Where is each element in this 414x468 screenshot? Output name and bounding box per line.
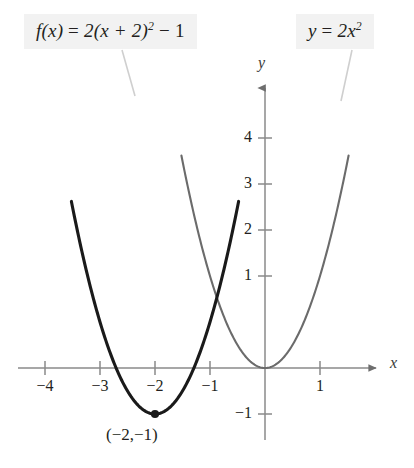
equation-y-lhs: y bbox=[308, 20, 317, 41]
equation-label-f: f(x) = 2(x + 2)2 − 1 bbox=[24, 14, 197, 49]
equation-label-y: y = 2x2 bbox=[296, 14, 374, 49]
x-tick-label--2: −2 bbox=[140, 377, 170, 395]
x-tick-label--3: −3 bbox=[85, 377, 115, 395]
y-tick-label-1: 1 bbox=[232, 266, 252, 284]
x-axis-label: x bbox=[390, 354, 397, 372]
vertex-coordinate-label: (−2,−1) bbox=[106, 425, 158, 445]
y-tick-label-4: 4 bbox=[232, 128, 252, 146]
equation-y-exponent: 2 bbox=[356, 20, 362, 33]
equation-f-lhs: f(x) bbox=[36, 20, 63, 41]
y-tick-label-3: 3 bbox=[232, 174, 252, 192]
equation-f-equals: = bbox=[63, 20, 84, 41]
equation-f-rhs: 2(x + 2) bbox=[84, 20, 148, 41]
y-tick-label-2: 2 bbox=[232, 220, 252, 238]
figure-canvas: f(x) = 2(x + 2)2 − 1 y = 2x2 y x −4 −3 −… bbox=[0, 0, 414, 468]
y-tick-label--1: −1 bbox=[222, 404, 252, 422]
y-axis-label: y bbox=[258, 54, 265, 72]
x-tick-label--4: −4 bbox=[30, 377, 60, 395]
equation-f-constant: − 1 bbox=[154, 20, 185, 41]
x-tick-label--1: −1 bbox=[195, 377, 225, 395]
x-tick-label-1: 1 bbox=[306, 377, 334, 395]
callout-leader-lines bbox=[122, 50, 352, 101]
vertex-dot bbox=[151, 410, 159, 418]
equation-y-rhs: 2x bbox=[337, 20, 355, 41]
graph-svg bbox=[0, 0, 414, 468]
equation-y-equals: = bbox=[317, 20, 338, 41]
